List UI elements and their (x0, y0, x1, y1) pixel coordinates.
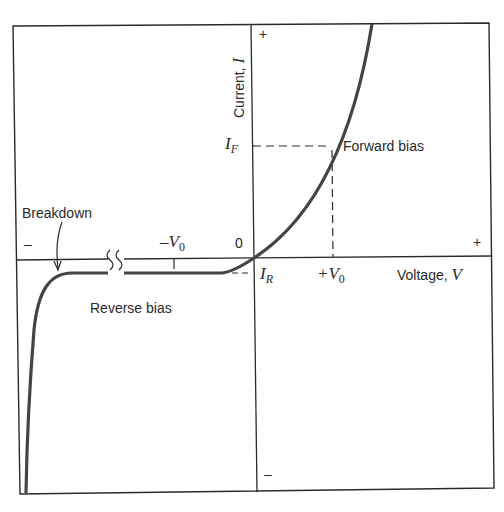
voltage-axis-label: Voltage, V (397, 265, 462, 285)
x-plus-sign: + (473, 234, 481, 250)
if-label: IF (225, 134, 238, 157)
axis-break-icon (116, 250, 122, 270)
voltage-axis-left (16, 259, 108, 260)
forward-bias-label: Forward bias (343, 138, 424, 154)
neg-v0-label: –V0 (160, 232, 185, 255)
pos-v0-label: +V0 (317, 264, 345, 287)
diode-iv-diagram (0, 0, 504, 512)
reverse-bias-label: Reverse bias (90, 300, 172, 316)
breakdown-label: Breakdown (22, 205, 92, 221)
x-minus-sign: – (24, 236, 32, 252)
voltage-axis-right (124, 256, 491, 259)
axis-break-icon (107, 250, 113, 270)
ir-label: IR (260, 264, 273, 287)
y-plus-sign: + (259, 26, 267, 42)
current-axis-label: Current, I (229, 58, 249, 118)
origin-label: 0 (235, 235, 243, 251)
y-minus-sign: – (264, 466, 272, 482)
